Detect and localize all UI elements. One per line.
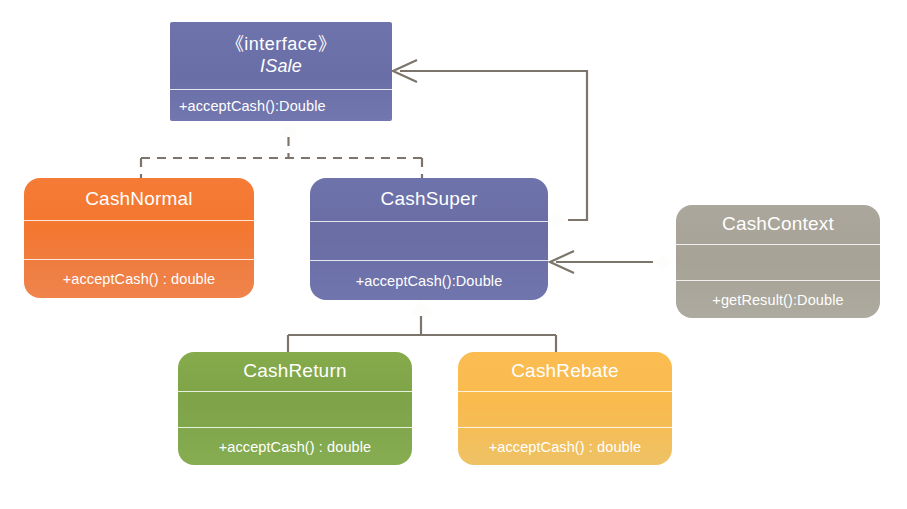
realization-triangle-isale bbox=[281, 120, 296, 136]
class-name-compartment-cashsuper: CashSuper bbox=[310, 178, 548, 221]
operation-item: +acceptCash():Double bbox=[310, 273, 548, 289]
class-name-compartment-cashrebate: CashRebate bbox=[458, 352, 672, 391]
operation-item: +acceptCash():Double bbox=[170, 98, 335, 114]
class-title-cashcontext: CashContext bbox=[722, 212, 834, 237]
operation-item: +acceptCash() : double bbox=[458, 439, 672, 455]
class-box-cashreturn[interactable]: CashReturn +acceptCash() : double bbox=[178, 352, 412, 465]
class-attributes-compartment-cashsuper bbox=[310, 221, 548, 260]
class-operations-compartment-cashcontext: +getResult():Double bbox=[676, 280, 880, 318]
class-title-cashsuper: CashSuper bbox=[381, 187, 478, 212]
diagram-canvas: 《interface》 ISale +acceptCash():Double C… bbox=[0, 0, 907, 509]
aggregation-arrowhead-cashsuper bbox=[550, 251, 574, 273]
class-operations-compartment-cashreturn: +acceptCash() : double bbox=[178, 427, 412, 465]
operation-item: +getResult():Double bbox=[676, 292, 880, 308]
operation-item: +acceptCash() : double bbox=[178, 439, 412, 455]
class-name-compartment-cashnormal: CashNormal bbox=[24, 178, 254, 220]
class-attributes-compartment-cashrebate bbox=[458, 391, 672, 427]
aggregation-diamond-cashsuper bbox=[548, 213, 568, 227]
class-operations-compartment-cashrebate: +acceptCash() : double bbox=[458, 427, 672, 465]
class-box-cashnormal[interactable]: CashNormal +acceptCash() : double bbox=[24, 178, 254, 298]
class-operations-compartment-isale: +acceptCash():Double bbox=[170, 89, 392, 121]
class-name-compartment-cashreturn: CashReturn bbox=[178, 352, 412, 391]
stereotype-label-isale: 《interface》 bbox=[226, 33, 337, 56]
aggregation-diamond-cashcontext bbox=[653, 255, 673, 269]
class-operations-compartment-cashnormal: +acceptCash() : double bbox=[24, 259, 254, 298]
class-box-isale[interactable]: 《interface》 ISale +acceptCash():Double bbox=[170, 22, 392, 121]
class-box-cashsuper[interactable]: CashSuper +acceptCash():Double bbox=[310, 178, 548, 300]
generalization-arrowhead-cashsuper bbox=[410, 299, 432, 316]
class-attributes-compartment-cashcontext bbox=[676, 244, 880, 280]
class-box-cashrebate[interactable]: CashRebate +acceptCash() : double bbox=[458, 352, 672, 465]
class-title-isale: ISale bbox=[260, 55, 302, 78]
realization-arrowhead-isale bbox=[278, 120, 299, 137]
class-title-cashrebate: CashRebate bbox=[511, 359, 619, 384]
class-title-cashnormal: CashNormal bbox=[85, 187, 193, 212]
class-operations-compartment-cashsuper: +acceptCash():Double bbox=[310, 260, 548, 300]
aggregation-arrowhead-isale bbox=[393, 60, 417, 82]
class-attributes-compartment-cashnormal bbox=[24, 220, 254, 259]
class-attributes-compartment-cashreturn bbox=[178, 391, 412, 427]
class-name-compartment-cashcontext: CashContext bbox=[676, 205, 880, 244]
class-box-cashcontext[interactable]: CashContext +getResult():Double bbox=[676, 205, 880, 318]
class-name-compartment-isale: 《interface》 ISale bbox=[170, 22, 392, 89]
class-title-cashreturn: CashReturn bbox=[243, 359, 346, 384]
operation-item: +acceptCash() : double bbox=[24, 271, 254, 287]
